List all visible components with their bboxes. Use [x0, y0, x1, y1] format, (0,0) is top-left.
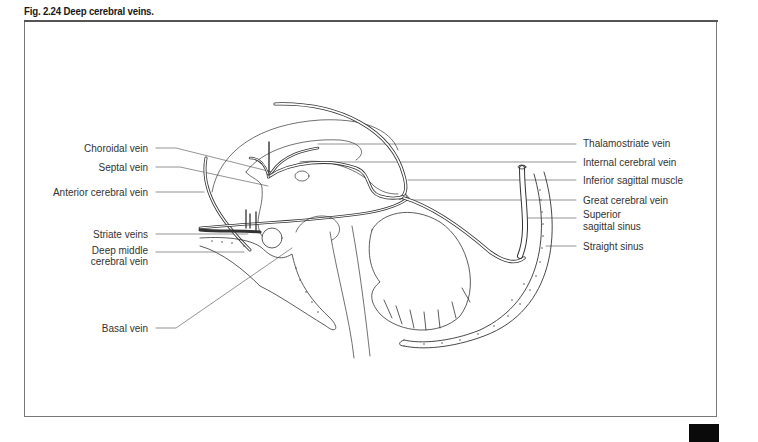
- internal-cerebral-vein: [270, 162, 406, 198]
- anterior-cerebral-vein: [205, 158, 250, 250]
- label-deep-middle-cerebral-vein-line1: Deep middle: [92, 245, 148, 256]
- deep-cerebral-veins-diagram: [0, 0, 758, 442]
- sella-bone: [200, 228, 336, 330]
- label-great-cerebral-vein: Great cerebral vein: [583, 195, 668, 206]
- straight-sinus-tube: [518, 165, 526, 256]
- label-basal-vein: Basal vein: [102, 323, 148, 334]
- page-corner-tab: [689, 424, 719, 442]
- label-superior-sagittal-sinus-line1: Superior: [583, 209, 621, 220]
- interthalamic-adhesion: [295, 171, 309, 181]
- inferior-sagittal-sinus: [275, 104, 406, 198]
- label-choroidal-vein: Choroidal vein: [84, 143, 148, 154]
- cerebellum: [369, 212, 470, 330]
- label-striate-veins: Striate veins: [93, 229, 148, 240]
- label-superior-sagittal-sinus-line2: sagittal sinus: [583, 221, 641, 232]
- brainstem: [296, 216, 370, 358]
- septal-vein: [250, 158, 268, 174]
- superior-sagittal-sinus: [400, 172, 553, 348]
- label-thalamostriate-vein: Thalamostriate vein: [583, 138, 670, 149]
- label-septal-vein: Septal vein: [99, 162, 148, 173]
- label-internal-cerebral-vein: Internal cerebral vein: [583, 157, 676, 168]
- label-inferior-sagittal-muscle: Inferior sagittal muscle: [583, 175, 683, 186]
- striate-veins: [246, 210, 256, 230]
- deep-middle-cerebral-vein: [200, 230, 260, 232]
- label-straight-sinus: Straight sinus: [583, 241, 644, 252]
- label-anterior-cerebral-vein: Anterior cerebral vein: [53, 187, 148, 198]
- label-deep-middle-cerebral-vein-line2: cerebral vein: [91, 256, 148, 267]
